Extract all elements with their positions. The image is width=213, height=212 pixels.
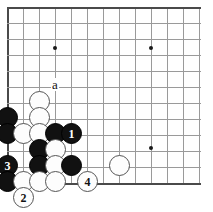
grid-line-vertical xyxy=(23,7,24,185)
numbered-stone-white-4: 4 xyxy=(77,171,98,192)
grid-line-vertical xyxy=(103,7,104,185)
star-point xyxy=(149,146,153,150)
grid-line-vertical xyxy=(199,7,200,185)
board-edge-top xyxy=(7,7,201,9)
stone-move-number: 3 xyxy=(5,160,11,172)
grid-line-horizontal xyxy=(7,23,201,24)
grid-line-vertical xyxy=(183,7,184,185)
go-board-diagram: a 1342 xyxy=(0,0,213,212)
stone-white xyxy=(45,171,66,192)
numbered-stone-white-2: 2 xyxy=(13,187,34,208)
grid-line-vertical xyxy=(87,7,88,185)
stone-move-number: 2 xyxy=(21,192,27,204)
grid-line-horizontal xyxy=(7,71,201,72)
point-label-a: a xyxy=(51,78,59,91)
grid-line-horizontal xyxy=(7,87,201,88)
grid-line-vertical xyxy=(151,7,152,185)
stone-black xyxy=(61,155,82,176)
grid-line-horizontal xyxy=(7,39,201,40)
stone-move-number: 1 xyxy=(69,128,75,140)
grid-line-vertical xyxy=(167,7,168,185)
star-point xyxy=(53,46,57,50)
numbered-stone-black-1: 1 xyxy=(61,123,82,144)
grid-line-horizontal xyxy=(7,55,201,56)
grid-line-vertical xyxy=(135,7,136,185)
stone-move-number: 4 xyxy=(85,176,91,188)
star-point xyxy=(149,46,153,50)
stone-white xyxy=(109,155,130,176)
